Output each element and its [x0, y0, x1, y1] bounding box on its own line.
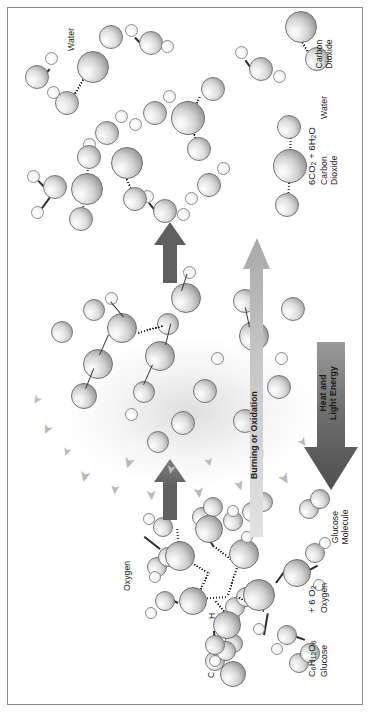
- products-formula: 6CO2 + 6H2O CarbonDioxide Water: [307, 5, 353, 185]
- diagram-figure: C O H: [0, 0, 372, 714]
- carbon-atom: [273, 149, 307, 183]
- energy-chevron-icon: ➤: [164, 463, 179, 476]
- carbon-atom: [171, 283, 201, 313]
- oxygen-atom: [95, 121, 119, 145]
- water-label: Water: [67, 28, 77, 51]
- hydrogen-atom: [271, 643, 283, 655]
- hydrogen-atom: [211, 352, 224, 365]
- hydrogen-atom: [125, 24, 138, 37]
- carbon-atom: [145, 341, 175, 371]
- carbon-atom: [111, 147, 143, 179]
- products-formula-name-left: CarbonDioxide: [320, 156, 339, 185]
- products-panel: CarbonDioxide Water: [19, 21, 349, 235]
- oxygen-atom: [277, 625, 297, 645]
- heat-light-energy-line1: Heat and: [318, 374, 328, 411]
- oxygen-atom: [143, 101, 167, 125]
- hydrogen-atom: [115, 110, 128, 123]
- oxygen-atom: [25, 65, 49, 89]
- hydrogen-atom: [27, 170, 40, 183]
- hydrogen-atom: [45, 52, 58, 65]
- carbon-atom: [171, 101, 205, 135]
- energy-chevron-icon: ➤: [145, 489, 159, 501]
- hydrogen-atom: [275, 352, 288, 365]
- hydrogen-atom: [129, 118, 142, 131]
- hydrogen-atom: [209, 655, 221, 667]
- oxygen-atom: [203, 497, 223, 517]
- products-formula-name-right: Water: [320, 96, 330, 119]
- products-formula-text: 6CO2 + 6H2O: [307, 127, 318, 185]
- oxygen-formula-name: Oxygen: [320, 583, 330, 613]
- reactants-panel: Oxygen GlucoseMolecule: [27, 475, 347, 695]
- oxygen-atom: [275, 193, 299, 217]
- burning-panel: ➤ ➤ ➤ ➤ ➤ ➤ ➤ ➤ ➤ ➤ ➤ ➤ ➤ ➤ ➤: [25, 261, 345, 461]
- hydrogen-atom: [145, 607, 157, 619]
- oxygen-atom: [205, 635, 225, 655]
- carbon-atom: [71, 173, 103, 205]
- carbon-atom: [243, 579, 275, 611]
- carbon-atom: [165, 541, 195, 571]
- oxygen-atom: [153, 517, 173, 537]
- oxygen-atom: [171, 411, 195, 435]
- glucose-formula-name: Glucose: [320, 645, 330, 677]
- oxygen-atom: [99, 25, 123, 49]
- energy-chevron-icon: ➤: [60, 445, 75, 459]
- oxygen-atom: [277, 115, 301, 139]
- burning-oxidation-arrow: [243, 237, 271, 537]
- reactants-formula: C6H12O6 Glucose + 6 O2 Oxygen: [307, 477, 353, 677]
- hydrogen-atom: [217, 162, 230, 175]
- oxygen-atom: [281, 297, 305, 321]
- energy-chevron-icon: ➤: [108, 483, 122, 495]
- carbon-atom: [107, 313, 137, 343]
- oxygen-atom: [77, 145, 101, 169]
- hydrogen-atom: [273, 70, 286, 83]
- energy-chevron-icon: ➤: [39, 422, 55, 438]
- oxygen-atom: [193, 379, 217, 403]
- process-arrow-group: Burning or Oxidation: [243, 237, 271, 537]
- hydrogen-atom: [149, 571, 161, 583]
- hydrogen-atom: [185, 192, 198, 205]
- diagram-canvas: C O H: [7, 7, 363, 705]
- hydrogen-atom: [235, 46, 248, 59]
- oxygen-atom: [51, 321, 73, 343]
- oxygen-atom: [249, 57, 273, 81]
- hydrogen-atom: [125, 408, 138, 421]
- hydrogen-atom: [177, 208, 190, 221]
- hydrogen-atom: [227, 505, 239, 517]
- hydrogen-atom: [161, 40, 174, 53]
- heat-light-energy-line2: Light Energy: [328, 366, 338, 420]
- heat-light-energy-label: Heat andLight Energy: [319, 347, 338, 439]
- oxygen-atom: [187, 137, 211, 161]
- carbon-atom: [195, 515, 223, 543]
- carbon-atom: [229, 539, 259, 569]
- oxygen-formula: + 6 O2: [307, 585, 318, 613]
- oxygen-label: Oxygen: [123, 561, 133, 591]
- oxygen-atom: [197, 173, 221, 197]
- energy-chevron-icon: ➤: [29, 392, 45, 407]
- oxygen-atom: [201, 77, 225, 101]
- oxygen-atom: [155, 591, 175, 611]
- oxygen-atom: [69, 207, 93, 231]
- oxygen-atom: [123, 187, 147, 211]
- bond: [144, 536, 161, 550]
- oxygen-atom: [55, 91, 79, 115]
- energy-output: Heat andLight Energy: [303, 341, 359, 491]
- hydrogen-atom: [163, 90, 176, 103]
- oxygen-atom: [83, 299, 105, 321]
- burning-oxidation-label: Burning or Oxidation: [250, 391, 260, 479]
- hydrogen-atom: [253, 623, 265, 635]
- carbon-atom: [77, 51, 109, 83]
- oxygen-atom: [147, 431, 169, 453]
- carbon-atom: [179, 587, 207, 615]
- carbon-atom: [71, 383, 97, 409]
- energy-chevron-icon: ➤: [190, 485, 207, 500]
- carbon-atom: [83, 349, 113, 379]
- oxygen-atom: [139, 31, 163, 55]
- oxygen-atom: [43, 175, 67, 199]
- hydrogen-atom: [31, 206, 44, 219]
- oxygen-atom: [153, 199, 177, 223]
- glucose-formula: C6H12O6: [307, 640, 318, 677]
